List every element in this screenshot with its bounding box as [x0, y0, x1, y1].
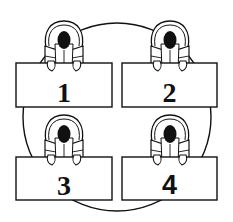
desk-1-number: 1 — [16, 79, 112, 107]
desk-3-number: 3 — [16, 172, 112, 200]
seating-diagram: 1 2 3 4 — [0, 0, 233, 222]
desk-4-number: 4 — [122, 172, 217, 199]
desk-2-number: 2 — [122, 79, 217, 107]
